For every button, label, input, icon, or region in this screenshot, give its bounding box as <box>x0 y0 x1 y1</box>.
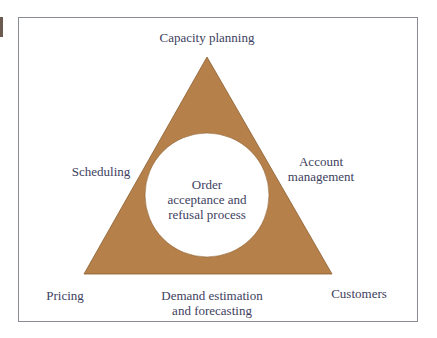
label-demand-estimation-line2: and forecasting <box>152 303 272 318</box>
label-customers: Customers <box>326 286 392 301</box>
center-label-line3: refusal process <box>147 207 267 222</box>
label-demand-estimation-line1: Demand estimation <box>152 288 272 303</box>
label-account-management-line1: Account <box>280 154 362 169</box>
center-label-line1: Order <box>147 177 267 192</box>
center-label-line2: acceptance and <box>147 192 267 207</box>
label-account-management: Account management <box>280 154 362 184</box>
label-scheduling: Scheduling <box>66 164 136 179</box>
center-label-order-process: Order acceptance and refusal process <box>147 177 267 222</box>
label-capacity-planning: Capacity planning <box>147 30 267 45</box>
label-demand-estimation: Demand estimation and forecasting <box>152 288 272 318</box>
label-account-management-line2: management <box>280 169 362 184</box>
label-pricing: Pricing <box>40 288 90 303</box>
